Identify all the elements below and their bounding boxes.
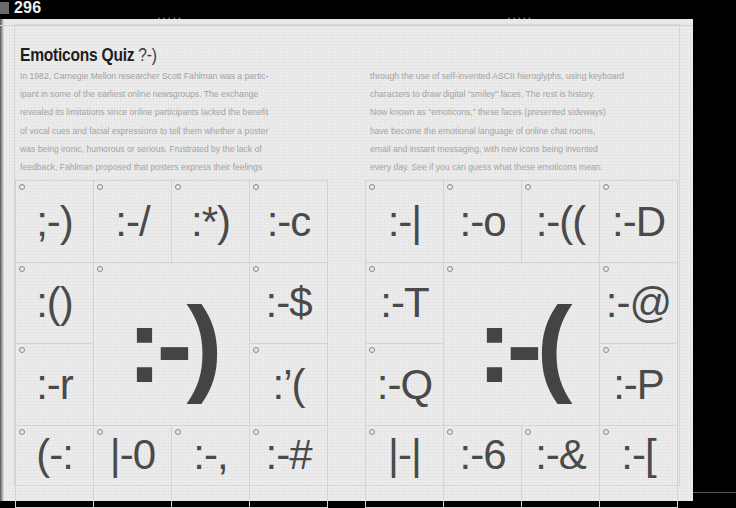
emoticon-large: :-) bbox=[127, 282, 217, 407]
emoticon-cell: :-T bbox=[365, 262, 444, 344]
emoticon: :-o bbox=[459, 198, 505, 246]
page-gutter-shadow bbox=[0, 19, 4, 501]
text-line: ipant in some of the earliest online new… bbox=[20, 85, 346, 103]
text-line: was being ironic, humorous or serious. F… bbox=[20, 140, 346, 158]
emoticon: :-$ bbox=[265, 279, 311, 327]
emoticon: :’( bbox=[273, 361, 305, 409]
emoticon: |-| bbox=[388, 431, 421, 479]
top-bar: 296 bbox=[0, 0, 736, 19]
emoticon-cell: :-c bbox=[249, 180, 328, 263]
emoticon: :-, bbox=[193, 431, 227, 479]
text-line: In 1982, Carnegie Mellon researcher Scot… bbox=[20, 67, 346, 85]
intro-column-right: through the use of self-invented ASCII h… bbox=[370, 67, 696, 176]
emoticon-cell: :-@ bbox=[599, 262, 678, 344]
text-line: revealed its limitations since online pa… bbox=[20, 103, 346, 121]
emoticon-large: :-( bbox=[477, 282, 567, 407]
emoticon: :*) bbox=[191, 198, 230, 246]
title-text: Emoticons Quiz bbox=[20, 44, 134, 65]
emoticon: :-6 bbox=[459, 431, 505, 479]
emoticon-cell: :-Q bbox=[365, 343, 444, 426]
emoticon: :-| bbox=[388, 198, 422, 246]
emoticon: :-[ bbox=[621, 431, 655, 479]
emoticon: :() bbox=[36, 279, 73, 327]
text-line: feedback, Fahlman proposed that posters … bbox=[20, 158, 346, 176]
emoticon-cell: :-(( bbox=[521, 180, 600, 263]
emoticon: ;-) bbox=[36, 198, 73, 246]
emoticon-cell: :-/ bbox=[93, 180, 172, 263]
emoticon-cell: :-, bbox=[171, 425, 250, 508]
emoticon-cell: :-P bbox=[599, 343, 678, 426]
text-line: have become the emotional language of on… bbox=[370, 122, 696, 140]
emoticon-cell: |-0 bbox=[93, 425, 172, 508]
emoticon: :-P bbox=[613, 361, 664, 409]
emoticon-cell: :-D bbox=[599, 180, 678, 263]
emoticon-cell: :’( bbox=[249, 343, 328, 426]
emoticon: :-(( bbox=[536, 198, 586, 246]
article-title: Emoticons Quiz ?-) bbox=[20, 44, 157, 66]
page-number-marker bbox=[0, 2, 9, 14]
emoticon: :-D bbox=[612, 198, 665, 246]
emoticon: :-# bbox=[265, 431, 311, 479]
emoticon: :-& bbox=[535, 431, 586, 479]
emoticon: :-T bbox=[380, 279, 428, 327]
emoticon-cell-large: :-( bbox=[443, 262, 600, 426]
emoticon: (-: bbox=[36, 431, 73, 479]
header-mark-left: • • • • • bbox=[158, 15, 181, 21]
emoticon-cell: :-$ bbox=[249, 262, 328, 344]
emoticon-cell: ;-) bbox=[15, 180, 94, 263]
text-line: every day. See if you can guess what the… bbox=[370, 158, 696, 176]
emoticon-cell: :-# bbox=[249, 425, 328, 508]
emoticon: :-r bbox=[36, 361, 73, 409]
text-line: through the use of self-invented ASCII h… bbox=[370, 67, 696, 85]
title-smiley: ?-) bbox=[138, 44, 156, 65]
emoticon-cell: (-: bbox=[15, 425, 94, 508]
emoticon-cell: :-& bbox=[521, 425, 600, 508]
emoticon: :-/ bbox=[115, 198, 149, 246]
emoticon-cell: :-| bbox=[365, 180, 444, 263]
emoticon-cell: :() bbox=[15, 262, 94, 344]
text-line: email and instant messaging, with new ic… bbox=[370, 140, 696, 158]
emoticon-cell: :-[ bbox=[599, 425, 678, 508]
intro-column-left: In 1982, Carnegie Mellon researcher Scot… bbox=[20, 67, 346, 176]
text-line: characters to draw digital “smiley” face… bbox=[370, 85, 696, 103]
emoticon: :-c bbox=[267, 198, 311, 246]
emoticon: :-Q bbox=[377, 361, 432, 409]
emoticon-cell: :-6 bbox=[443, 425, 522, 508]
emoticon: :-@ bbox=[606, 279, 671, 327]
text-line: of vocal cues and facial expressions to … bbox=[20, 122, 346, 140]
emoticon-cell: :-o bbox=[443, 180, 522, 263]
emoticon-cell: :*) bbox=[171, 180, 250, 263]
emoticon-cell: |-| bbox=[365, 425, 444, 508]
emoticon-cell-large: :-) bbox=[93, 262, 250, 426]
header-mark-right: • • • • • bbox=[508, 15, 531, 21]
edge-rule bbox=[693, 492, 736, 493]
text-line: Now known as “emoticons,” these faces (p… bbox=[370, 103, 696, 121]
emoticon-cell: :-r bbox=[15, 343, 94, 426]
page-number: 296 bbox=[14, 0, 41, 17]
emoticon: |-0 bbox=[110, 431, 155, 479]
